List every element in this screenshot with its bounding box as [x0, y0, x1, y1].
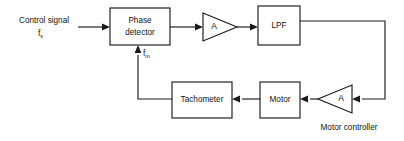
block-diagram-canvas: Phase detector A LPF A Motor Tachometer — [0, 0, 404, 141]
label-feedback-frequency: fm — [143, 48, 150, 59]
block-low-pass-filter-label: LPF — [271, 21, 286, 30]
wire-motor-to-tachometer — [232, 96, 260, 103]
block-diagram-svg: Phase detector A LPF A Motor Tachometer — [0, 0, 404, 141]
block-motor[interactable]: Motor — [260, 82, 300, 118]
block-phase-detector-label-line2: detector — [125, 28, 155, 37]
block-phase-detector-label-line1: Phase — [128, 16, 152, 25]
label-feedback-frequency-symbol-subscript: m — [145, 53, 150, 59]
label-control-signal-text: Control signal — [19, 16, 69, 25]
wire-input-to-phase-detector — [78, 24, 110, 31]
label-feedback-frequency-symbol: fm — [143, 48, 150, 59]
label-control-signal: Control signal fs — [19, 16, 69, 39]
wire-amplifier-to-lpf — [237, 24, 258, 31]
block-amplifier-forward-label: A — [211, 21, 217, 31]
block-motor-label: Motor — [270, 95, 291, 104]
wire-amplifier-feedback-to-motor — [300, 96, 318, 103]
block-tachometer[interactable]: Tachometer — [172, 82, 232, 118]
block-amplifier-forward[interactable]: A — [203, 13, 237, 41]
caption-motor-controller: Motor controller — [321, 123, 378, 132]
wire-phase-detector-to-amplifier — [170, 24, 203, 31]
block-phase-detector[interactable]: Phase detector — [110, 8, 170, 45]
block-amplifier-feedback-label: A — [338, 93, 344, 103]
caption-motor-controller-text: Motor controller — [321, 123, 378, 132]
block-low-pass-filter[interactable]: LPF — [258, 6, 300, 45]
label-control-signal-symbol-subscript: s — [40, 33, 43, 39]
label-control-signal-symbol: fs — [38, 28, 43, 39]
block-tachometer-label: Tachometer — [181, 95, 224, 104]
block-amplifier-feedback[interactable]: A — [318, 85, 352, 113]
wire-tachometer-to-phase-detector — [135, 45, 172, 99]
